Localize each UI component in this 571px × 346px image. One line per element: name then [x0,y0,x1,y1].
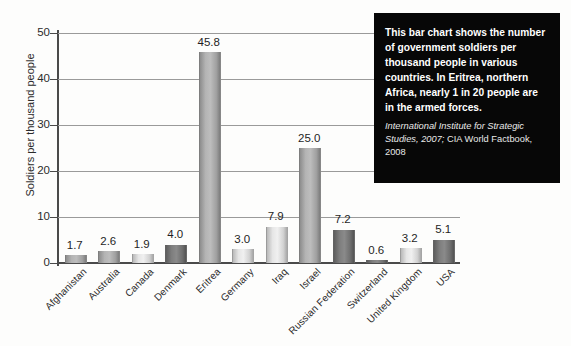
bar-usa[interactable] [433,240,455,263]
bar-afghanistan[interactable] [65,255,87,263]
y-axis-tick-label: 50 [24,27,50,39]
bar-value-label: 1.9 [134,239,150,251]
y-axis-tick [50,217,58,218]
y-axis-tick [50,79,58,80]
chart-figure: Soldiers per thousand people 01020304050… [0,0,571,346]
gridline [58,217,460,218]
x-axis-label: Australia [86,266,122,302]
x-axis-label: Afghanistan [43,266,89,312]
y-axis-tick [50,263,58,264]
bar-value-label: 5.1 [435,224,451,236]
y-axis-tick-label: 30 [24,119,50,131]
bar-russian-federation[interactable] [333,230,355,263]
bar-germany[interactable] [232,249,254,263]
bar-iraq[interactable] [266,227,288,263]
bar-value-label: 1.7 [67,240,83,252]
bar-value-label: 2.6 [100,236,116,248]
bar-australia[interactable] [98,251,120,263]
bar-israel[interactable] [299,148,321,263]
y-axis-tick-label: 40 [24,73,50,85]
x-axis-label: USA [434,266,457,289]
x-axis-label: Canada [123,266,156,299]
y-axis-tick [50,33,58,34]
bar-value-label: 45.8 [198,37,220,49]
annotation-source: International Institute for Strategic St… [385,120,549,160]
bar-eritrea[interactable] [199,52,221,263]
bar-value-label: 25.0 [298,133,320,145]
x-axis-label: Germany [219,266,256,303]
x-axis-label: Denmark [152,266,189,303]
bar-value-label: 7.9 [268,211,284,223]
bar-canada[interactable] [132,254,154,263]
bar-denmark[interactable] [165,245,187,263]
bar-value-label: 3.2 [402,233,418,245]
bar-value-label: 7.2 [335,214,351,226]
x-axis-label: Eritrea [193,266,222,295]
annotation-box: This bar chart shows the number of gover… [374,13,560,183]
y-axis-tick-label: 10 [24,211,50,223]
bar-value-label: 4.0 [167,229,183,241]
bar-switzerland[interactable] [366,260,388,263]
bar-value-label: 3.0 [234,234,250,246]
bar-value-label: 0.6 [368,245,384,257]
x-axis-label: Israel [298,266,324,292]
y-axis-tick-label: 0 [24,257,50,269]
y-axis-tick [50,125,58,126]
annotation-body: This bar chart shows the number of gover… [385,25,549,116]
x-axis-label: Iraq [269,266,289,286]
bar-united-kingdom[interactable] [400,248,422,263]
y-axis-tick [50,171,58,172]
y-axis-tick-label: 20 [24,165,50,177]
